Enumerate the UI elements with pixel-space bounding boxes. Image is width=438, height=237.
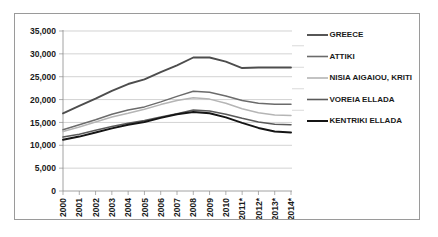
series-line-kentriki-ellada — [63, 112, 291, 140]
legend-label-3: NISIA AIGAIOU, KRITI — [330, 73, 413, 82]
legend-label-2: ATTIKI — [330, 52, 355, 61]
x-axis-tick-label: 2001 — [74, 198, 84, 217]
x-axis-tick-label: 2009 — [205, 198, 215, 217]
x-axis-labels: 2000200120022003200420052006200720082009… — [58, 197, 296, 219]
y-axis-tick-label: 10,000 — [30, 140, 56, 150]
y-axis-tick-label: 35,000 — [30, 26, 56, 36]
y-axis-tick-label: 0 — [51, 186, 56, 196]
x-axis-tick-label: 2008 — [188, 198, 198, 217]
chart-frame: 05,00010,00015,00020,00025,00030,00035,0… — [14, 13, 420, 220]
legend: GREECEATTIKINISIA AIGAIOU, KRITIVOREIA E… — [292, 30, 412, 125]
y-axis-tick-label: 20,000 — [30, 95, 56, 105]
data-series-group — [63, 58, 291, 140]
legend-label-1: GREECE — [330, 30, 364, 39]
y-axis-tick-label: 15,000 — [30, 118, 56, 128]
x-axis-tick-label: 2007 — [172, 198, 182, 217]
y-axis-tick-label: 25,000 — [30, 72, 56, 82]
line-chart: 05,00010,00015,00020,00025,00030,00035,0… — [15, 14, 419, 219]
x-axis-tick-label: 2000 — [58, 198, 68, 217]
x-axis-ticks — [63, 191, 291, 195]
x-axis-tick-label: 2012* — [254, 197, 264, 219]
gridlines-group — [59, 31, 292, 191]
x-axis-tick-label: 2003 — [107, 198, 117, 217]
y-axis-tick-label: 5,000 — [35, 163, 57, 173]
x-axis-tick-label: 2004 — [123, 198, 133, 217]
x-axis-tick-label: 2013* — [270, 197, 280, 219]
x-axis-tick-label: 2011* — [237, 197, 247, 219]
x-axis-tick-label: 2006 — [156, 198, 166, 217]
x-axis-tick-label: 2010 — [221, 198, 231, 217]
x-axis-tick-label: 2005 — [140, 198, 150, 217]
y-axis-tick-label: 30,000 — [30, 49, 56, 59]
legend-label-4: VOREIA ELLADA — [330, 95, 395, 104]
x-axis-tick-label: 2002 — [91, 198, 101, 217]
x-axis-tick-label: 2014* — [286, 197, 296, 219]
y-axis-labels: 05,00010,00015,00020,00025,00030,00035,0… — [30, 26, 56, 196]
legend-label-5: KENTRIKI ELLADA — [330, 116, 403, 125]
series-line-greece — [63, 58, 291, 114]
